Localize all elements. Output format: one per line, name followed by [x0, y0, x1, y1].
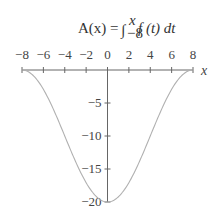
- x-axis-label: x: [200, 63, 208, 78]
- x-tick-label: 8: [190, 47, 197, 62]
- x-tick-label: −4: [58, 47, 72, 62]
- x-axis: −8−6−4−202468: [15, 47, 196, 73]
- x-tick-label: 4: [147, 47, 154, 62]
- x-tick-label: −2: [79, 47, 93, 62]
- y-axis: −5−10−15−20: [81, 70, 110, 209]
- y-tick-label: −10: [81, 128, 101, 143]
- chart-title: A(x) = ∫ x −8 f (t) dt: [78, 12, 176, 41]
- chart: A(x) = ∫ x −8 f (t) dt −8−6−4−202468 −5−…: [0, 0, 222, 215]
- y-tick-label: −20: [81, 194, 101, 209]
- x-tick-label: 0: [104, 47, 111, 62]
- x-tick-label: 6: [168, 47, 175, 62]
- x-tick-label: 2: [126, 47, 133, 62]
- title-integrand: f (t) dt: [138, 20, 176, 37]
- title-lhs: A(x) =: [78, 20, 119, 37]
- x-tick-label: −8: [15, 47, 29, 62]
- integral-sign: ∫: [120, 22, 127, 39]
- x-tick-label: −6: [36, 47, 50, 62]
- y-tick-label: −5: [88, 95, 102, 110]
- y-tick-label: −15: [81, 161, 101, 176]
